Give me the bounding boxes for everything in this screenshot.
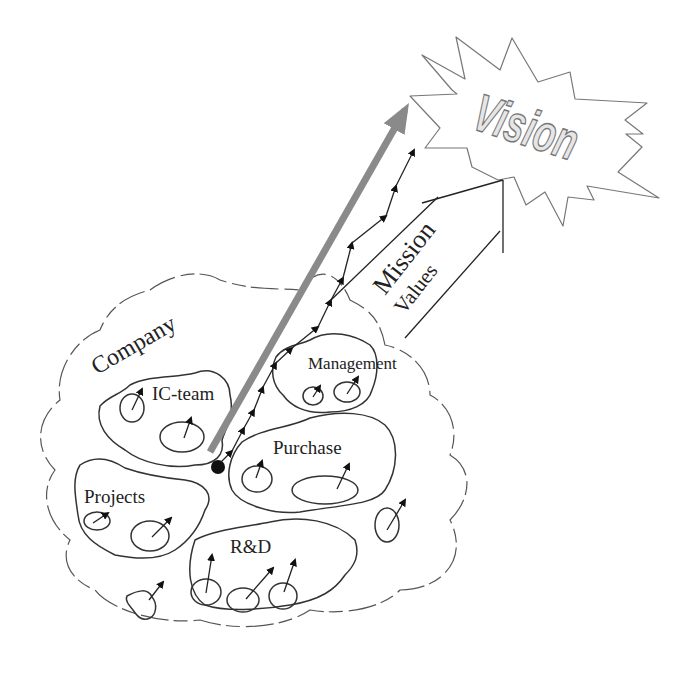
zigzag-path — [221, 150, 414, 462]
vision-starburst: Vision — [410, 37, 659, 226]
company-label: Company — [87, 310, 181, 379]
standalone-cell-right — [375, 500, 405, 542]
standalone-cell-left — [126, 582, 163, 619]
mission-values-band: Mission Values — [331, 180, 503, 338]
vision-mission-diagram: Vision Mission Values IC-team Management… — [0, 0, 690, 680]
rnd-unit: R&D — [190, 519, 357, 612]
ic-team-label: IC-team — [152, 383, 214, 404]
management-unit: Management — [273, 334, 397, 413]
rnd-label: R&D — [230, 536, 271, 557]
management-label: Management — [308, 354, 397, 373]
projects-unit: Projects — [75, 459, 209, 558]
projects-label: Projects — [84, 486, 145, 507]
purchase-unit: Purchase — [229, 413, 396, 512]
purchase-label: Purchase — [273, 437, 342, 458]
company-boundary — [41, 274, 467, 627]
start-point — [211, 460, 225, 474]
vision-label: Vision — [466, 82, 586, 172]
